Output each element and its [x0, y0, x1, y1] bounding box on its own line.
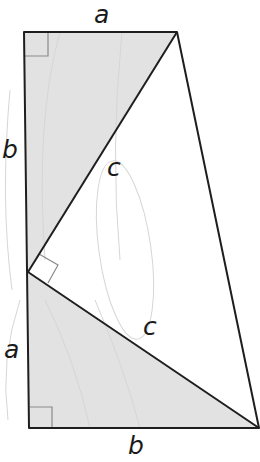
- right-angle-icon-middle: [39, 254, 58, 283]
- label-left-lower-a: a: [4, 337, 19, 362]
- trapezoid-pythagorean-diagram: [0, 0, 260, 462]
- label-bottom-edge-b: b: [128, 433, 144, 458]
- label-hyp-lower-c: c: [143, 314, 157, 339]
- label-left-upper-b: b: [2, 137, 18, 162]
- label-hyp-upper-c: c: [107, 155, 121, 180]
- label-top-edge-a: a: [94, 2, 109, 27]
